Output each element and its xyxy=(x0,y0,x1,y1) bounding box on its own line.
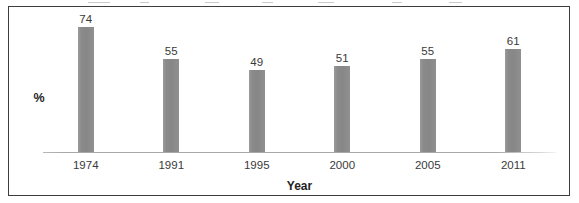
artifact-speck xyxy=(88,2,110,3)
x-tick-label: 2011 xyxy=(471,159,557,171)
bar-value-label: 61 xyxy=(483,36,543,48)
x-tick-label: 1995 xyxy=(214,159,300,171)
artifact-speck xyxy=(140,2,149,3)
bar-value-label: 49 xyxy=(227,57,287,69)
bar-chart: % 74 55 49 51 xyxy=(8,6,570,196)
bar-value-label: 51 xyxy=(312,53,372,65)
x-tick-label: 2005 xyxy=(385,159,471,171)
bar[interactable] xyxy=(334,66,350,153)
bar[interactable] xyxy=(163,59,179,153)
plot-area: 74 55 49 51 55 xyxy=(43,11,556,153)
x-tick-label: 2000 xyxy=(300,159,386,171)
bar-category-1991: 55 xyxy=(129,11,215,153)
x-axis-tick-labels: 1974 1991 1995 2000 2005 2011 xyxy=(43,159,556,171)
scanned-page: % 74 55 49 51 xyxy=(0,0,579,203)
bar[interactable] xyxy=(78,27,94,153)
artifact-speck xyxy=(318,2,334,3)
cropped-text-artifact xyxy=(0,0,579,5)
artifact-speck xyxy=(392,2,402,3)
artifact-speck xyxy=(205,2,219,3)
bar-value-label: 74 xyxy=(56,14,116,26)
x-axis-title: Year xyxy=(43,179,556,193)
bar-category-2000: 51 xyxy=(300,11,386,153)
bar-category-1974: 74 xyxy=(43,11,129,153)
bar[interactable] xyxy=(249,70,265,153)
bar-category-1995: 49 xyxy=(214,11,300,153)
x-tick-label: 1991 xyxy=(129,159,215,171)
bar[interactable] xyxy=(505,49,521,153)
bar-value-label: 55 xyxy=(398,46,458,58)
artifact-speck xyxy=(262,2,273,3)
bar-group: 74 55 49 51 55 xyxy=(43,11,556,153)
bar[interactable] xyxy=(420,59,436,153)
artifact-speck xyxy=(449,2,462,3)
x-axis-line xyxy=(43,152,556,153)
bar-category-2005: 55 xyxy=(385,11,471,153)
bar-value-label: 55 xyxy=(141,46,201,58)
x-tick-label: 1974 xyxy=(43,159,129,171)
bar-category-2011: 61 xyxy=(471,11,557,153)
